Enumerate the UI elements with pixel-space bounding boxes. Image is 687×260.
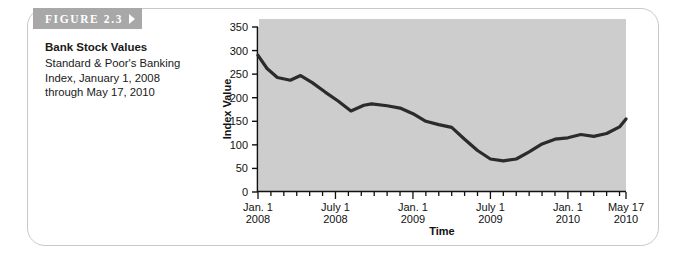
- x-tick-label-year: 2010: [556, 213, 580, 225]
- x-tick-label-date: Jan. 1: [398, 201, 428, 213]
- y-tick-label: 50: [236, 162, 248, 174]
- y-tick-label: 300: [230, 45, 248, 57]
- x-tick-label-year: 2008: [246, 213, 270, 225]
- y-tick-label: 0: [242, 186, 248, 198]
- chart-canvas: 050100150200250300350 Jan. 12008July 120…: [28, 9, 660, 247]
- x-tick-label-date: July 1: [321, 201, 350, 213]
- x-tick-label-year: 2009: [401, 213, 425, 225]
- x-tick-label-date: May 17: [608, 201, 644, 213]
- y-axis-ticks: 050100150200250300350: [230, 21, 258, 198]
- plot-area-background: [259, 19, 626, 192]
- x-tick-label-date: Jan. 1: [553, 201, 583, 213]
- x-axis-ticks: Jan. 12008July 12008Jan. 12009July 12009…: [243, 192, 644, 225]
- y-tick-label: 350: [230, 21, 248, 33]
- y-tick-label: 250: [230, 68, 248, 80]
- x-tick-label-year: 2009: [478, 213, 502, 225]
- figure-card: FIGURE 2.3 Bank Stock Values Standard & …: [27, 8, 659, 246]
- x-axis-title: Time: [429, 225, 454, 237]
- x-tick-label-year: 2010: [614, 213, 638, 225]
- y-tick-label: 100: [230, 139, 248, 151]
- y-axis-title: Index Value: [221, 79, 233, 140]
- x-tick-label-date: July 1: [476, 201, 505, 213]
- x-tick-label-year: 2008: [323, 213, 347, 225]
- x-tick-label-date: Jan. 1: [243, 201, 273, 213]
- line-chart: 050100150200250300350 Jan. 12008July 120…: [28, 9, 660, 247]
